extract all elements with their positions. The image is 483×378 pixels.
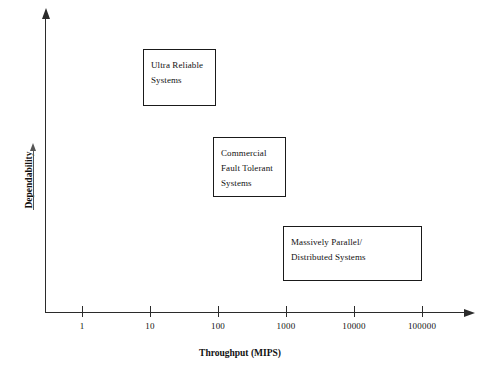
x-tick-mark xyxy=(354,306,355,317)
dependability-throughput-diagram: 1 10 100 1000 10000 100000 Throughput (M… xyxy=(0,0,483,378)
y-increasing-arrowhead-icon xyxy=(30,143,36,151)
box-massively-parallel-distributed-systems: Massively Parallel/ Distributed Systems xyxy=(283,226,422,281)
box-label-line: Systems xyxy=(221,176,285,191)
x-axis-arrowhead-icon xyxy=(464,309,475,317)
x-tick-mark xyxy=(150,306,151,317)
x-tick-label-10: 10 xyxy=(145,321,154,331)
y-increasing-arrow-shaft-icon xyxy=(33,150,34,210)
x-axis-line xyxy=(45,312,465,313)
x-tick-mark xyxy=(286,306,287,317)
box-label-line: Ultra Reliable xyxy=(151,58,215,73)
x-tick-mark xyxy=(422,306,423,317)
x-tick-label-100000: 100000 xyxy=(408,321,436,331)
x-tick-label-100: 100 xyxy=(211,321,225,331)
x-tick-label-10000: 10000 xyxy=(342,321,366,331)
x-tick-mark xyxy=(82,306,83,317)
box-ultra-reliable-systems: Ultra Reliable Systems xyxy=(143,49,216,106)
box-label-line: Systems xyxy=(151,73,215,88)
x-tick-label-1000: 1000 xyxy=(277,321,296,331)
x-axis-title: Throughput (MIPS) xyxy=(199,348,281,358)
box-label-line: Commercial xyxy=(221,146,285,161)
x-tick-mark xyxy=(218,306,219,317)
y-axis-arrowhead-icon xyxy=(42,8,50,19)
y-axis-line xyxy=(45,18,46,313)
x-tick-label-1: 1 xyxy=(80,321,85,331)
box-commercial-fault-tolerant-systems: Commercial Fault Tolerant Systems xyxy=(213,137,286,197)
box-label-line: Fault Tolerant xyxy=(221,161,285,176)
box-label-line: Distributed Systems xyxy=(291,250,421,265)
box-label-line: Massively Parallel/ xyxy=(291,235,421,250)
